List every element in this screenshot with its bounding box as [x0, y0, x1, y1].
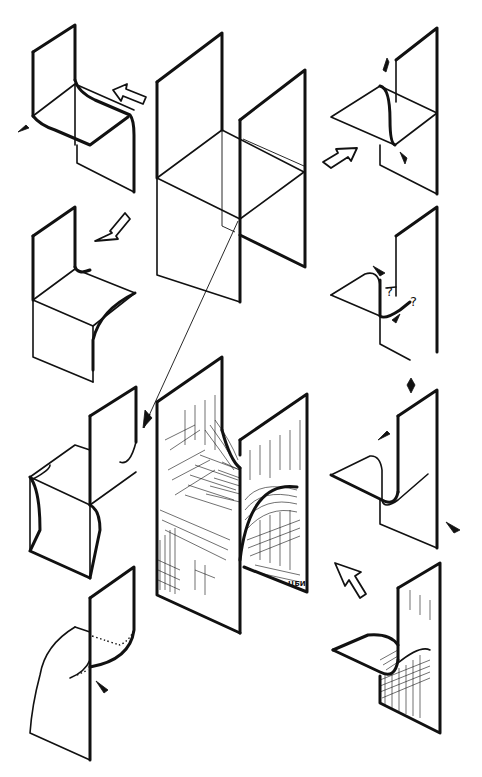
panel-top-right: [323, 28, 437, 194]
hatching-texture: [380, 590, 430, 718]
diagram-canvas: ? ?: [0, 0, 482, 777]
pen-marker-icon: [407, 378, 415, 393]
question-mark-2: ?: [410, 294, 417, 309]
panel-center-top: [143, 33, 305, 428]
arrow-left-icon: [113, 84, 146, 104]
pen-marker-icon: [383, 58, 389, 72]
panel-bottom-right: [333, 563, 440, 733]
arrow-up-left-icon: [335, 563, 366, 598]
panel-mid-right: ? ?: [331, 207, 437, 360]
panel-center-bottom: ЦБИ: [157, 357, 307, 633]
pen-marker-icon: [378, 431, 390, 440]
arrow-down-left-icon: [95, 213, 130, 241]
arrow-up-right-icon: [323, 148, 357, 168]
pen-marker-icon: [96, 681, 108, 693]
panel-top-left: [18, 25, 146, 192]
panel-lower-left: [30, 387, 136, 578]
pen-marker-icon: [446, 522, 460, 533]
panel-bottom-left: [30, 567, 134, 760]
panel-mid-left: [33, 207, 135, 382]
question-mark-1: ?: [386, 284, 393, 299]
artist-signature: ЦБИ: [288, 580, 306, 588]
panel-lower-right: [331, 378, 460, 548]
pen-marker-icon: [400, 152, 407, 164]
hatching-texture: [158, 395, 240, 595]
pen-marker-icon: [18, 125, 29, 132]
